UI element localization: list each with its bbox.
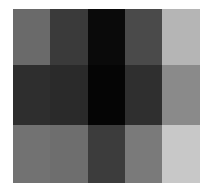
- heatmap-cell-r1-c2: [50, 9, 88, 65]
- heatmap-cell-r3-c2: [50, 125, 88, 183]
- heatmap-cell-r3-c4: [125, 125, 162, 183]
- heatmap-grid: [13, 9, 200, 183]
- heatmap-cell-r3-c5: [162, 125, 200, 183]
- heatmap-cell-r2-c1: [13, 65, 50, 125]
- heatmap-cell-r1-c5: [162, 9, 200, 65]
- heatmap-cell-r1-c4: [125, 9, 162, 65]
- heatmap-cell-r2-c4: [125, 65, 162, 125]
- heatmap-cell-r2-c5: [162, 65, 200, 125]
- heatmap-cell-r3-c1: [13, 125, 50, 183]
- heatmap-cell-r1-c1: [13, 9, 50, 65]
- heatmap-cell-r1-c3: [88, 9, 125, 65]
- heatmap-cell-r2-c3: [88, 65, 125, 125]
- heatmap-cell-r3-c3: [88, 125, 125, 183]
- heatmap-cell-r2-c2: [50, 65, 88, 125]
